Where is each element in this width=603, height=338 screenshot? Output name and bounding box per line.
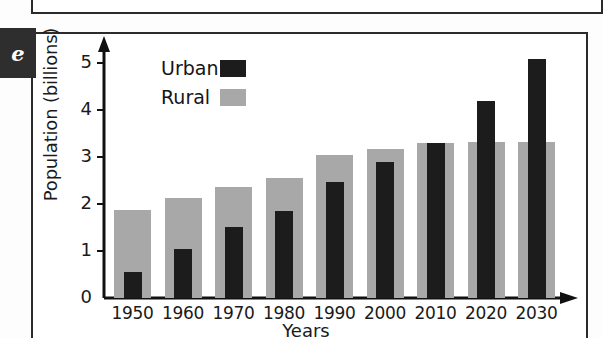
- y-axis-tick-label: 5: [66, 51, 92, 72]
- y-axis-tick: [97, 156, 104, 158]
- legend-label-rural: Rural: [161, 86, 210, 108]
- y-axis-tick-label: 1: [66, 239, 92, 260]
- x-axis-tick-label: 1980: [259, 303, 309, 323]
- bar-urban: [225, 227, 243, 298]
- x-axis-tick-label: 2010: [411, 303, 461, 323]
- x-axis-tick-label: 1960: [158, 303, 208, 323]
- bar-urban: [174, 249, 192, 298]
- legend-label-urban: Urban: [161, 57, 218, 79]
- bar-urban: [528, 59, 546, 298]
- y-axis-tick: [97, 203, 104, 205]
- x-axis-tick-label: 2020: [461, 303, 511, 323]
- x-axis-tick-label: 1970: [209, 303, 259, 323]
- panel-label-e: e: [0, 28, 36, 78]
- x-axis-tick-label: 1990: [310, 303, 360, 323]
- bar-urban: [427, 143, 445, 298]
- x-axis-tick-label: 1950: [108, 303, 158, 323]
- y-axis-tick-label: 4: [66, 98, 92, 119]
- bar-urban: [124, 272, 142, 298]
- y-axis-tick-label: 2: [66, 192, 92, 213]
- bar-urban: [275, 211, 293, 298]
- legend-swatch-rural: [220, 89, 246, 106]
- x-axis-tick-label: 2000: [360, 303, 410, 323]
- bar-urban: [326, 182, 344, 298]
- legend-swatch-urban: [220, 60, 246, 77]
- x-axis-tick-label: 2030: [512, 303, 562, 323]
- y-axis-tick-label: 3: [66, 145, 92, 166]
- y-axis-tick: [97, 250, 104, 252]
- bar-urban: [477, 101, 495, 298]
- y-axis-title: Population (billions): [40, 5, 61, 225]
- y-axis-tick-label: 0: [66, 286, 92, 307]
- y-axis-tick: [97, 109, 104, 111]
- y-axis-tick: [97, 62, 104, 64]
- bar-urban: [376, 162, 394, 298]
